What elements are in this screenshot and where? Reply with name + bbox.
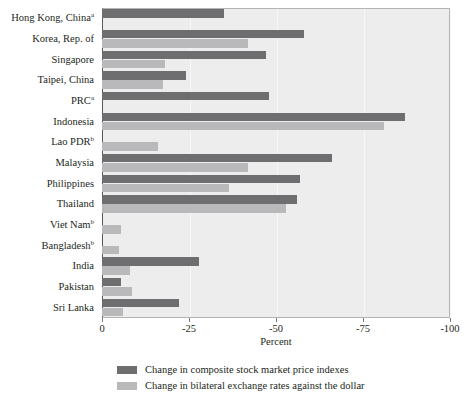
x-tick-mark [189, 318, 190, 322]
footnote-marker: b [91, 218, 95, 226]
bar-exchange-rate [102, 80, 163, 89]
y-axis-label-hong-kong-china: Hong Kong, Chinaa [0, 12, 94, 23]
bar-chart: Hong Kong, ChinaaKorea, Rep. ofSingapore… [0, 0, 474, 403]
bar-exchange-rate [102, 39, 248, 48]
bar-stock-index [102, 71, 186, 80]
chart-legend: Change in composite stock market price i… [117, 363, 457, 395]
x-tick-mark [363, 318, 364, 322]
bar-row [102, 215, 450, 236]
legend-swatch-exchange-rate [117, 382, 137, 390]
y-axis-label-bangladesh: Bangladeshb [0, 240, 94, 251]
y-axis-label-lao-pdr: Lao PDRb [0, 136, 94, 147]
y-axis-label-singapore: Singapore [0, 54, 94, 65]
x-tick-label: -100 [440, 323, 459, 335]
x-tick-mark [450, 318, 451, 322]
x-tick-label: -75 [356, 323, 370, 335]
gridline [450, 9, 451, 317]
x-tick-label: -25 [182, 323, 196, 335]
bar-exchange-rate [102, 246, 119, 255]
legend-item: Change in composite stock market price i… [117, 363, 457, 377]
bar-stock-index [102, 195, 297, 204]
bar-row [102, 111, 450, 132]
x-tick-label: 0 [99, 323, 104, 335]
y-axis-label-indonesia: Indonesia [0, 116, 94, 127]
bar-stock-index [102, 9, 224, 18]
bar-row [102, 235, 450, 256]
bar-stock-index [102, 257, 199, 266]
legend-swatch-stock-index [117, 366, 137, 374]
bar-stock-index [102, 278, 121, 287]
y-axis-label-india: India [0, 260, 94, 271]
bar-exchange-rate [102, 225, 121, 234]
bar-row [102, 70, 450, 91]
bar-exchange-rate [102, 287, 132, 296]
bar-row [102, 297, 450, 318]
bar-exchange-rate [102, 266, 130, 275]
bar-row [102, 277, 450, 298]
y-axis-label-taipei-china: Taipei, China [0, 74, 94, 85]
footnote-marker: a [91, 94, 94, 102]
bar-stock-index [102, 92, 269, 101]
y-axis-label-viet-nam: Viet Namb [0, 219, 94, 230]
bar-exchange-rate [102, 184, 229, 193]
bar-stock-index [102, 113, 405, 122]
y-axis-label-philippines: Philippines [0, 178, 94, 189]
y-axis-labels: Hong Kong, ChinaaKorea, Rep. ofSingapore… [0, 8, 98, 318]
bar-stock-index [102, 299, 179, 308]
bar-row [102, 173, 450, 194]
bar-exchange-rate [102, 308, 123, 317]
bar-row [102, 8, 450, 29]
bar-row [102, 132, 450, 153]
x-tick-label: -50 [269, 323, 283, 335]
bar-stock-index [102, 154, 332, 163]
footnote-marker: b [91, 135, 95, 143]
legend-label: Change in composite stock market price i… [145, 364, 349, 376]
bar-exchange-rate [102, 163, 248, 172]
bar-exchange-rate [102, 204, 286, 213]
x-axis-title: Percent [102, 336, 450, 347]
x-tick-mark [276, 318, 277, 322]
bar-row [102, 91, 450, 112]
bar-exchange-rate [102, 60, 165, 69]
y-axis-label-sri-lanka: Sri Lanka [0, 302, 94, 313]
bar-row [102, 153, 450, 174]
legend-item: Change in bilateral exchange rates again… [117, 379, 457, 393]
legend-label: Change in bilateral exchange rates again… [145, 380, 365, 392]
bar-row [102, 256, 450, 277]
y-axis-label-thailand: Thailand [0, 198, 94, 209]
bar-stock-index [102, 30, 304, 39]
x-axis-ticks: 0-25-50-75-100 [102, 318, 450, 336]
bar-stock-index [102, 51, 266, 60]
x-tick-mark [102, 318, 103, 322]
bar-row [102, 29, 450, 50]
bar-row [102, 49, 450, 70]
bar-row [102, 194, 450, 215]
y-axis-label-korea-rep-of: Korea, Rep. of [0, 33, 94, 44]
bar-exchange-rate [102, 122, 384, 131]
bar-rows [102, 8, 450, 318]
footnote-marker: b [91, 238, 95, 246]
chart-title-fragment [103, 0, 353, 7]
footnote-marker: a [91, 11, 94, 19]
bar-exchange-rate [102, 142, 158, 151]
bar-stock-index [102, 175, 300, 184]
y-axis-label-pakistan: Pakistan [0, 281, 94, 292]
y-axis-label-malaysia: Malaysia [0, 157, 94, 168]
y-axis-label-prc: PRCa [0, 95, 94, 106]
